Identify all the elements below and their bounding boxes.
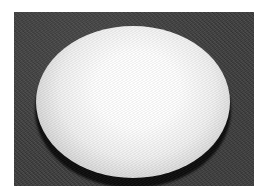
- egg-photo: [14, 12, 254, 186]
- egg: [36, 26, 230, 178]
